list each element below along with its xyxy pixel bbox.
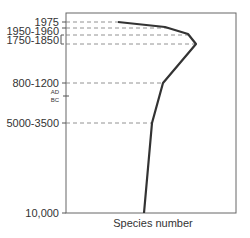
species-chart: 1975 1950-1960 1750-1850 800-1200 AD BC … (0, 0, 250, 238)
label-ad: AD (51, 89, 60, 95)
guide-lines (66, 22, 196, 123)
label-10000: 10,000 (25, 207, 59, 219)
label-1750-1850: 1750-1850 (6, 34, 59, 46)
label-bc: BC (51, 97, 60, 103)
label-5000-3500: 5000-3500 (6, 117, 59, 129)
plot-frame (66, 13, 236, 213)
range-bracket-1750-1850 (61, 35, 64, 44)
x-axis-title: Species number (113, 217, 193, 229)
species-line (118, 22, 196, 213)
label-800-1200: 800-1200 (13, 77, 60, 89)
